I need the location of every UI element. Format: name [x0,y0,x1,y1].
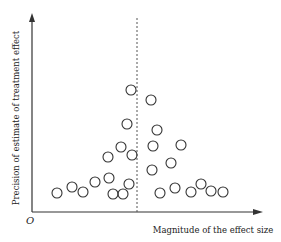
data-point [155,188,165,198]
data-point [103,152,113,162]
y-axis-label: Precision of estimate of treatment effec… [11,30,21,205]
data-point [148,141,158,151]
data-point [124,179,134,189]
data-point [104,173,114,183]
data-point [52,188,62,198]
funnel-plot: O Magnitude of the effect size Precision… [0,0,281,242]
data-point [166,158,176,168]
data-point [116,142,126,152]
data-point [196,179,206,189]
data-point [67,182,77,192]
data-point [152,125,162,135]
data-point [78,187,88,197]
data-point [206,186,216,196]
data-point [170,183,180,193]
data-point [126,85,136,95]
origin-label: O [26,215,34,226]
data-point [146,95,156,105]
y-axis-arrow-icon [29,13,35,22]
data-point [118,189,128,199]
data-point [176,140,186,150]
data-point [147,165,157,175]
data-point [186,187,196,197]
data-point [108,189,118,199]
data-point [127,150,137,160]
data-point [122,119,132,129]
data-point [90,177,100,187]
data-points [52,85,228,199]
data-point [218,187,228,197]
x-axis-label: Magnitude of the effect size [153,225,274,235]
x-axis-arrow-icon [253,209,263,215]
